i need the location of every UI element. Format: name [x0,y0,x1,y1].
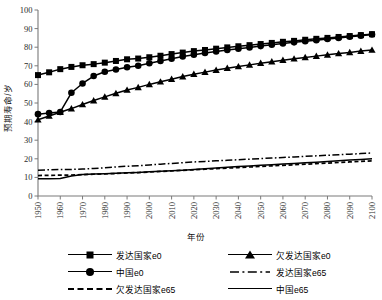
legend-key-square-solid [68,249,112,261]
legend-item[interactable]: 中国e65 [228,280,331,297]
series-marker [157,58,164,65]
series-marker [346,33,353,40]
legend-column: 发达国家e0中国e0欠发达国家e65 [68,246,175,297]
series-marker [46,69,52,75]
legend-item[interactable]: 欠发达国家e65 [68,280,175,297]
series-marker [90,73,97,80]
series-line [38,50,372,120]
series-marker [113,66,120,73]
x-tick-label: 2020 [189,202,199,219]
x-tick-label: 1980 [100,202,110,219]
legend-label: 中国e0 [116,266,144,278]
series-marker [135,63,142,70]
x-axis-ticks: 1950196019701980199020002010202020302040… [33,196,377,219]
x-tick-label: 1990 [122,202,132,219]
y-tick-label: 70 [24,61,33,71]
legend-label: 欠发达国家e0 [276,249,331,261]
series-marker [313,37,320,44]
y-tick-label: 100 [20,5,33,15]
y-tick-label: 20 [24,154,33,164]
series-marker [291,39,298,46]
x-tick-label: 2050 [256,202,266,219]
legend-item[interactable]: 中国e0 [68,263,175,280]
legend-item[interactable]: 发达国家e65 [228,263,331,280]
y-tick-label: 90 [24,24,33,34]
y-tick-label: 80 [24,42,33,52]
chart-figure: 0102030405060708090100 19501960197019801… [0,0,382,300]
x-tick-label: 1950 [33,202,43,219]
series-marker [224,47,231,54]
x-tick-label: 2040 [233,202,243,219]
series-marker [35,72,41,78]
series-marker [113,58,119,64]
series-marker [269,41,276,48]
x-tick-label: 2100 [367,202,377,219]
legend-label: 发达国家e65 [276,266,326,278]
legend-key-triangle-solid [228,249,272,261]
series-marker [280,40,287,47]
series-marker [57,66,63,72]
series-marker [102,68,109,75]
y-tick-label: 10 [24,172,33,182]
series-marker [335,35,342,42]
series-marker [246,44,253,51]
series-marker [80,62,86,68]
series-marker [235,45,242,52]
series-marker [146,60,153,67]
series-group [34,31,375,179]
line-chart-plot: 0102030405060708090100 19501960197019801… [0,0,382,246]
series-marker [79,80,86,87]
legend-key-circle-solid [68,266,112,278]
legend-key-dash-dot [228,266,272,278]
series-marker [302,38,309,45]
x-axis-title: 年份 [187,232,205,242]
y-tick-label: 0 [28,191,32,201]
legend-label: 欠发达国家e65 [116,283,175,295]
series-marker [179,53,186,60]
x-tick-label: 1960 [55,202,65,219]
series-marker [324,36,331,43]
series-marker [146,54,152,60]
series-marker [168,55,175,62]
x-tick-label: 1970 [78,202,88,219]
series-marker [358,32,365,39]
series-marker [124,64,131,71]
x-tick-label: 2060 [278,202,288,219]
x-tick-label: 2010 [167,202,177,219]
x-tick-label: 2090 [345,202,355,219]
series-marker [191,51,198,58]
y-tick-label: 40 [24,117,33,127]
y-tick-label: 50 [24,98,33,108]
series-marker [124,56,130,62]
y-axis-ticks: 0102030405060708090100 [20,5,38,201]
legend-label: 发达国家e0 [116,249,162,261]
legend-item[interactable]: 欠发达国家e0 [228,246,331,263]
series-marker [135,56,141,62]
series-marker [369,31,376,38]
legend-triangle-marker [245,250,255,258]
x-tick-label: 2030 [211,202,221,219]
series-marker [68,89,75,96]
legend-key-solid [228,283,272,295]
y-tick-label: 60 [24,79,33,89]
y-axis-title: 预期寿命/岁 [3,84,13,131]
x-tick-label: 2080 [322,202,332,219]
legend-column: 欠发达国家e0发达国家e65中国e65 [228,246,331,297]
chart-legend: 发达国家e0中国e0欠发达国家e65欠发达国家e0发达国家e65中国e65 [0,246,382,300]
series-marker [202,50,209,57]
series-marker [257,43,264,50]
legend-key-dashed [68,283,112,295]
legend-label: 中国e65 [276,283,308,295]
x-tick-label: 2070 [300,202,310,219]
x-tick-label: 2000 [144,202,154,219]
series-marker [213,48,220,55]
series-marker [102,60,108,66]
series-marker [68,64,74,70]
legend-item[interactable]: 发达国家e0 [68,246,175,263]
y-tick-label: 30 [24,135,33,145]
legend-square-marker [87,251,94,258]
series-marker [91,61,97,67]
legend-circle-marker [86,268,94,276]
